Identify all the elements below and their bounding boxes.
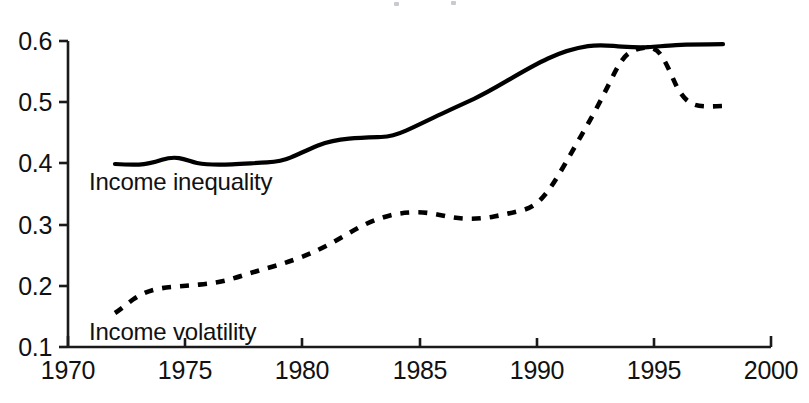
y-axis-tick-label-0.3: 0.3 xyxy=(0,213,52,238)
x-axis-tick-label-1990: 1990 xyxy=(492,358,582,383)
y-axis-tick-label-0.5: 0.5 xyxy=(0,90,52,115)
series-label-income-volatility: Income volatility xyxy=(89,320,256,344)
series-label-income-inequality: Income inequality xyxy=(89,170,272,194)
chart-container: 0.6 0.5 0.4 0.3 0.2 0.1 1970 1975 1980 1… xyxy=(0,0,809,403)
x-axis-tick-label-1995: 1995 xyxy=(609,358,699,383)
x-axis-tick-label-2000: 2000 xyxy=(726,358,809,383)
x-axis-tick-label-1980: 1980 xyxy=(257,358,347,383)
y-axis-tick-label-0.4: 0.4 xyxy=(0,151,52,176)
y-axis-tick-label-0.2: 0.2 xyxy=(0,274,52,299)
y-axis xyxy=(59,41,68,347)
y-axis-tick-label-0.6: 0.6 xyxy=(0,29,52,54)
x-axis-tick-label-1975: 1975 xyxy=(140,358,230,383)
series-line-income-inequality xyxy=(115,44,723,165)
x-axis-tick-label-1970: 1970 xyxy=(23,358,113,383)
x-axis-tick-label-1985: 1985 xyxy=(375,358,465,383)
